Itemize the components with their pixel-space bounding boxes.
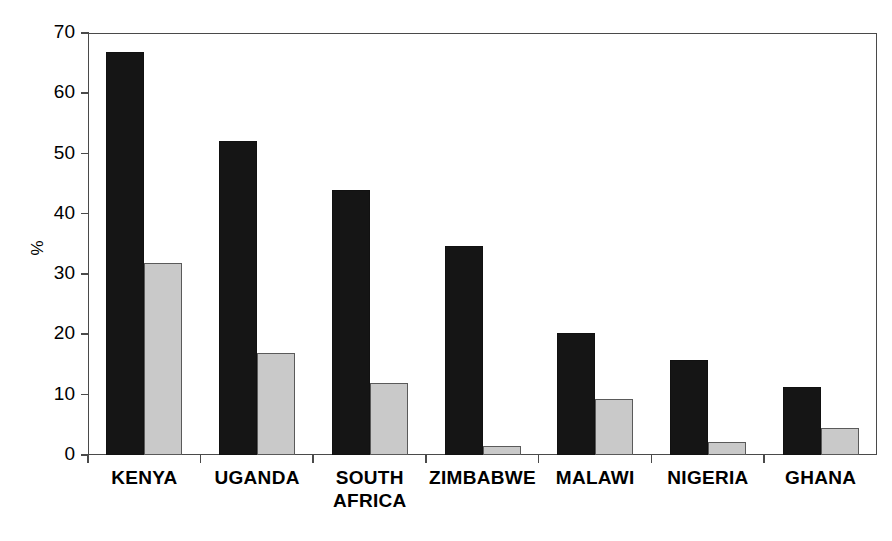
bar-pair: [539, 33, 652, 455]
bar-series-2: [708, 442, 746, 455]
y-axis-label: %: [28, 228, 48, 268]
page-edge: [0, 531, 892, 541]
bar-group: [539, 33, 652, 455]
bar-series-2: [483, 446, 521, 455]
y-tick-label: 10: [54, 383, 75, 405]
y-tick-label: 40: [54, 202, 75, 224]
bar-pair: [313, 33, 426, 455]
x-axis-label: NIGERIA: [652, 466, 765, 512]
x-axis-label: GHANA: [764, 466, 877, 512]
x-tick-mark: [87, 454, 89, 463]
x-axis-label: SOUTH AFRICA: [313, 466, 426, 512]
y-tick-label: 30: [54, 262, 75, 284]
bar-series-1: [670, 360, 708, 455]
x-tick-mark: [763, 454, 765, 463]
x-axis-label: MALAWI: [539, 466, 652, 512]
x-tick-mark: [651, 454, 653, 463]
y-tick-label: 60: [54, 81, 75, 103]
bar-pair: [201, 33, 314, 455]
bar-group: [88, 33, 201, 455]
bar-pair: [764, 33, 877, 455]
bar-series-2: [595, 399, 633, 455]
bar-series-1: [445, 246, 483, 455]
y-tick-label: 20: [54, 322, 75, 344]
y-tick-label: 70: [54, 21, 75, 43]
y-tick-label: 0: [64, 443, 75, 465]
bar-groups: [88, 33, 877, 455]
bar-group: [201, 33, 314, 455]
y-tick-label: 50: [54, 142, 75, 164]
bar-group: [764, 33, 877, 455]
bar-pair: [88, 33, 201, 455]
bar-group: [652, 33, 765, 455]
x-axis-labels: KENYAUGANDASOUTH AFRICAZIMBABWEMALAWINIG…: [88, 466, 877, 512]
x-tick-mark: [538, 454, 540, 463]
bar-series-1: [783, 387, 821, 455]
x-axis-label: ZIMBABWE: [426, 466, 539, 512]
bar-group: [313, 33, 426, 455]
x-tick-mark: [425, 454, 427, 463]
x-axis-label: UGANDA: [201, 466, 314, 512]
bar-series-1: [106, 52, 144, 455]
bar-series-2: [821, 428, 859, 455]
bar-pair: [652, 33, 765, 455]
x-axis-label: KENYA: [88, 466, 201, 512]
bar-series-1: [219, 141, 257, 455]
bar-series-2: [257, 353, 295, 455]
x-tick-mark: [200, 454, 202, 463]
bar-series-1: [557, 333, 595, 455]
bar-pair: [426, 33, 539, 455]
bar-series-2: [370, 383, 408, 455]
bar-series-2: [144, 263, 182, 455]
bar-chart-figure: % 010203040506070 KENYAUGANDASOUTH AFRIC…: [0, 0, 892, 541]
bar-group: [426, 33, 539, 455]
bar-series-1: [332, 190, 370, 455]
x-tick-mark: [312, 454, 314, 463]
